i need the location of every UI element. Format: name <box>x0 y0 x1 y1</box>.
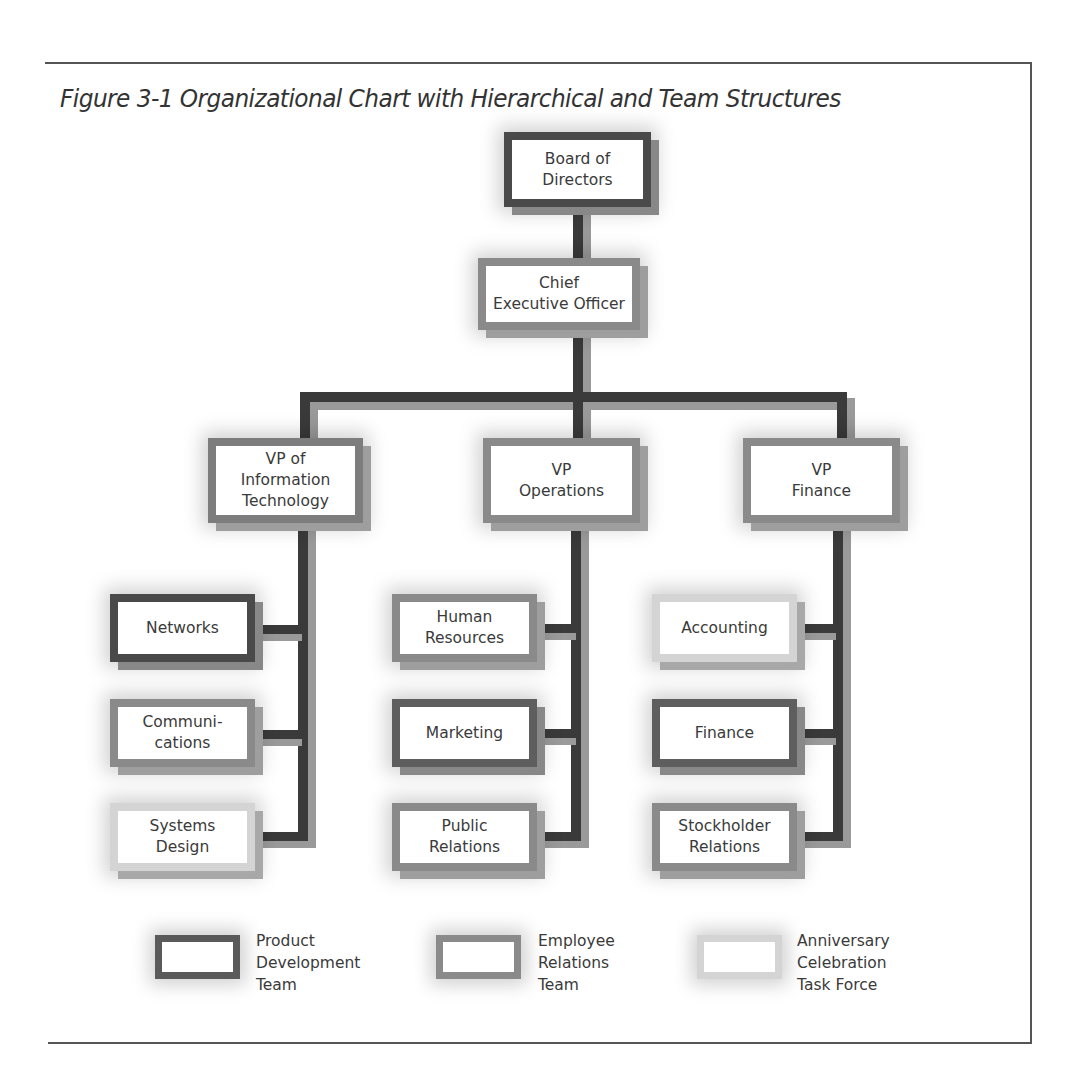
node-label: Communi- cations <box>142 712 222 754</box>
node-label: Board of Directors <box>542 149 612 191</box>
legend-label-product-development: Product Development Team <box>256 930 360 996</box>
node-label: VP Finance <box>792 460 851 502</box>
node-marketing: Marketing <box>392 699 537 767</box>
legend-label-anniversary-task-force: Anniversary Celebration Task Force <box>797 930 890 996</box>
frame-bottom-rule <box>48 1042 1032 1044</box>
legend-swatch-anniversary-task-force <box>697 935 782 979</box>
frame-right-rule <box>1030 62 1032 1042</box>
node-label: Finance <box>695 723 754 744</box>
figure-title: Figure 3-1 Organizational Chart with Hie… <box>60 84 841 113</box>
node-vp-finance: VP Finance <box>743 438 900 523</box>
node-label: Accounting <box>681 618 768 639</box>
node-label: Public Relations <box>429 816 500 858</box>
legend-label-employee-relations: Employee Relations Team <box>538 930 615 996</box>
node-public-relations: Public Relations <box>392 803 537 871</box>
node-label: Marketing <box>426 723 503 744</box>
node-communications: Communi- cations <box>110 699 255 767</box>
node-stockholder-relations: Stockholder Relations <box>652 803 797 871</box>
node-finance: Finance <box>652 699 797 767</box>
node-board-of-directors: Board of Directors <box>504 132 651 207</box>
node-vp-information-technology: VP of Information Technology <box>208 438 363 523</box>
node-label: Networks <box>146 618 219 639</box>
frame-top-rule <box>45 62 1032 64</box>
node-human-resources: Human Resources <box>392 594 537 662</box>
node-label: Stockholder Relations <box>678 816 770 858</box>
node-label: Systems Design <box>150 816 216 858</box>
node-label: VP Operations <box>519 460 604 502</box>
node-networks: Networks <box>110 594 255 662</box>
legend-swatch-employee-relations <box>436 935 521 979</box>
node-label: Chief Executive Officer <box>493 273 625 315</box>
node-vp-operations: VP Operations <box>483 438 640 523</box>
node-chief-executive-officer: Chief Executive Officer <box>478 258 640 330</box>
node-label: VP of Information Technology <box>241 449 331 512</box>
legend-swatch-product-development <box>155 935 240 979</box>
node-systems-design: Systems Design <box>110 803 255 871</box>
node-accounting: Accounting <box>652 594 797 662</box>
node-label: Human Resources <box>425 607 504 649</box>
